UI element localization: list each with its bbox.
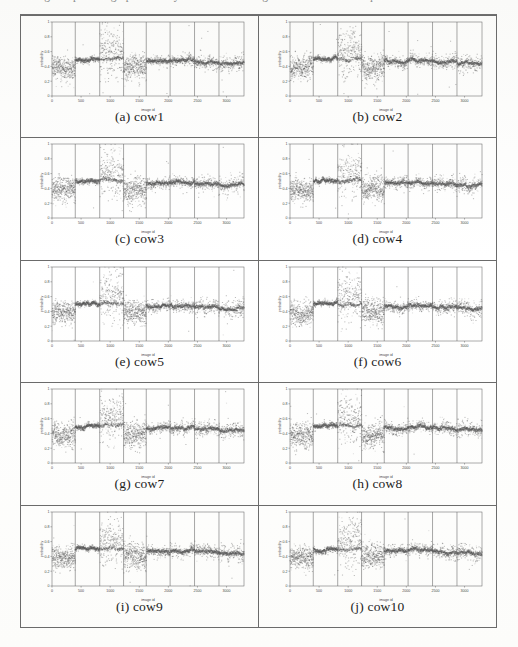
y-tick-label: 0.6 xyxy=(44,295,49,299)
x-axis-label: image id xyxy=(379,597,393,601)
scatter-points xyxy=(52,389,244,453)
x-tick-label: 1500 xyxy=(373,343,381,347)
plot-area-cow8: 05001000150020002500300000.20.40.60.81im… xyxy=(268,385,488,479)
scatter-points-light xyxy=(52,267,244,335)
x-tick-label: 1500 xyxy=(373,588,381,592)
y-tick-label: 0.8 xyxy=(44,158,49,162)
figure-row-3: 05001000150020002500300000.20.40.60.81im… xyxy=(21,261,496,383)
x-axis-label: image id xyxy=(141,475,155,479)
y-tick-label: 0.8 xyxy=(44,525,49,529)
x-tick-label: 0 xyxy=(51,466,53,470)
x-tick-label: 0 xyxy=(289,343,291,347)
x-tick-label: 500 xyxy=(78,466,84,470)
y-axis-label: probability xyxy=(39,540,43,557)
scatter-plot-cow4: 05001000150020002500300000.20.40.60.81im… xyxy=(268,140,488,234)
plot-area-cow2: 05001000150020002500300000.20.40.60.81im… xyxy=(268,18,488,112)
y-tick-label: 0.6 xyxy=(282,295,287,299)
y-tick-label: 1 xyxy=(47,20,49,24)
y-tick-label: 1 xyxy=(285,265,287,269)
plot-area-cow3: 05001000150020002500300000.20.40.60.81im… xyxy=(30,140,250,234)
x-tick-label: 1500 xyxy=(373,466,381,470)
y-axis-label: probability xyxy=(39,418,43,435)
plot-area-cow6: 05001000150020002500300000.20.40.60.81im… xyxy=(268,263,488,357)
x-tick-label: 1000 xyxy=(344,466,352,470)
panel-caption-cow10: (j) cow10 xyxy=(351,600,405,614)
y-tick-label: 0.4 xyxy=(44,310,49,314)
y-tick-label: 0.2 xyxy=(44,80,49,84)
x-tick-label: 1500 xyxy=(135,466,143,470)
y-tick-label: 0.2 xyxy=(282,569,287,573)
y-tick-label: 0.6 xyxy=(44,540,49,544)
x-axis-label: image id xyxy=(379,230,393,234)
x-tick-label: 2500 xyxy=(193,99,201,103)
x-tick-label: 1000 xyxy=(106,343,114,347)
x-tick-label: 2000 xyxy=(402,343,410,347)
x-tick-label: 3000 xyxy=(222,99,230,103)
y-tick-label: 1 xyxy=(47,265,49,269)
y-tick-label: 1 xyxy=(285,143,287,147)
x-tick-label: 2500 xyxy=(431,221,439,225)
figure-panel-cow2: 05001000150020002500300000.20.40.60.81im… xyxy=(259,16,496,137)
scatter-plot-cow7: 05001000150020002500300000.20.40.60.81im… xyxy=(30,385,250,479)
x-tick-label: 2500 xyxy=(431,343,439,347)
figure-panel-cow3: 05001000150020002500300000.20.40.60.81im… xyxy=(21,138,259,259)
y-tick-label: 0.6 xyxy=(282,172,287,176)
y-tick-label: 1 xyxy=(285,510,287,514)
figure-panel-cow1: 05001000150020002500300000.20.40.60.81im… xyxy=(21,16,259,137)
y-tick-label: 1 xyxy=(285,20,287,24)
y-tick-label: 0.8 xyxy=(282,35,287,39)
figure-row-1: 05001000150020002500300000.20.40.60.81im… xyxy=(21,16,496,138)
scatter-points xyxy=(52,145,244,212)
y-axis-label: probability xyxy=(277,173,281,190)
x-tick-label: 0 xyxy=(51,343,53,347)
scatter-points-dark xyxy=(52,22,244,94)
scatter-points-light xyxy=(290,154,482,204)
scatter-plot-cow8: 05001000150020002500300000.20.40.60.81im… xyxy=(268,385,488,479)
y-tick-label: 0.8 xyxy=(282,525,287,529)
figure-panel-cow10: 05001000150020002500300000.20.40.60.81im… xyxy=(259,506,496,627)
y-tick-label: 0.2 xyxy=(282,202,287,206)
scatter-points xyxy=(52,512,244,586)
cut-off-header-text: Figure: per-image probability scatter ov… xyxy=(34,0,484,1)
x-tick-label: 2000 xyxy=(402,466,410,470)
x-tick-label: 1000 xyxy=(344,343,352,347)
y-axis-label: probability xyxy=(277,540,281,557)
panel-caption-cow8: (h) cow8 xyxy=(353,477,403,491)
y-tick-label: 0.6 xyxy=(44,417,49,421)
y-tick-label: 1 xyxy=(47,510,49,514)
y-tick-label: 0 xyxy=(285,462,287,466)
scatter-points-dark xyxy=(290,512,482,575)
scatter-plot-cow9: 05001000150020002500300000.20.40.60.81im… xyxy=(30,508,250,602)
scatter-points xyxy=(290,25,482,95)
figure-panel-cow7: 05001000150020002500300000.20.40.60.81im… xyxy=(21,383,259,504)
scatter-plot-cow1: 05001000150020002500300000.20.40.60.81im… xyxy=(30,18,250,112)
scatter-points-light xyxy=(52,389,243,448)
scatter-points xyxy=(52,267,244,340)
x-tick-label: 1000 xyxy=(344,99,352,103)
y-tick-label: 0.4 xyxy=(282,310,287,314)
y-tick-label: 0.2 xyxy=(282,324,287,328)
x-tick-label: 0 xyxy=(289,221,291,225)
scatter-plot-cow5: 05001000150020002500300000.20.40.60.81im… xyxy=(30,263,250,357)
x-tick-label: 2500 xyxy=(193,466,201,470)
scatter-points-light xyxy=(52,28,244,88)
y-tick-label: 0.4 xyxy=(282,187,287,191)
x-tick-label: 0 xyxy=(289,466,291,470)
x-tick-label: 500 xyxy=(316,99,322,103)
y-tick-label: 0.8 xyxy=(44,35,49,39)
y-tick-label: 0.8 xyxy=(282,158,287,162)
y-tick-label: 1 xyxy=(47,143,49,147)
x-tick-label: 2000 xyxy=(164,221,172,225)
y-tick-label: 0 xyxy=(47,462,49,466)
y-tick-label: 0 xyxy=(47,339,49,343)
x-tick-label: 500 xyxy=(316,588,322,592)
scatter-points-dark xyxy=(52,512,244,586)
x-axis-label: image id xyxy=(141,597,155,601)
x-tick-label: 1000 xyxy=(344,221,352,225)
scatter-points-light xyxy=(52,148,244,208)
figure-row-2: 05001000150020002500300000.20.40.60.81im… xyxy=(21,138,496,260)
x-tick-label: 1000 xyxy=(106,221,114,225)
scatter-points-dark xyxy=(290,145,482,215)
y-tick-label: 0.2 xyxy=(44,202,49,206)
scatter-plot-cow3: 05001000150020002500300000.20.40.60.81im… xyxy=(30,140,250,234)
